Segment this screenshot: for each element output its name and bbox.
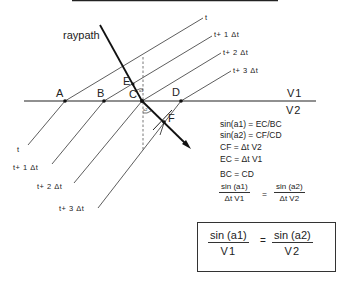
angle-a2-label: a2 — [143, 107, 147, 112]
ratio-right-fraction: sin (a2) Δt V2 — [274, 182, 305, 203]
equation-cf: CF = Δt V2 — [220, 143, 262, 152]
point-f-label: F — [168, 112, 175, 124]
medium-v2-label: V2 — [286, 104, 301, 116]
lower-wavefront-label-t2: t+ 2 Δt — [37, 182, 62, 191]
snell-law-box: sin (a1) V1 = sin (a2) V2 — [197, 222, 336, 272]
snell-equals: = — [260, 235, 266, 246]
snell-left-numerator: sin (a1) — [208, 229, 249, 243]
equation-sin-a1: sin(a1) = EC/BC — [220, 120, 282, 129]
ratio-left-fraction: sin (a1) Δt V1 — [219, 182, 250, 203]
point-c-label: C — [129, 88, 137, 100]
ratio-right-denominator: Δt V2 — [280, 193, 300, 203]
upper-wavefront-label-t0: t — [205, 13, 208, 22]
equation-ec: EC = Δt V1 — [220, 155, 262, 164]
upper-wavefront-label-t2: t+ 2 Δt — [223, 48, 248, 57]
point-e-label: E — [123, 75, 130, 87]
ratio-left-numerator: sin (a1) — [219, 182, 250, 193]
snell-right-numerator: sin (a2) — [272, 229, 313, 243]
snell-right-denominator: V2 — [285, 243, 300, 257]
snell-right-fraction: sin (a2) V2 — [272, 229, 313, 257]
angle-a1-label: a1 — [139, 88, 143, 93]
ratio-right-numerator: sin (a2) — [274, 182, 305, 193]
point-a-label: A — [56, 87, 63, 99]
upper-wavefront-label-t1: t+ 1 Δt — [214, 30, 239, 39]
medium-v1-label: V1 — [287, 87, 302, 99]
point-b-label: B — [97, 87, 104, 99]
lower-wavefront-label-t1: t+ 1 Δt — [13, 163, 38, 172]
lower-wavefront-label-t3: t+ 3 Δt — [59, 204, 84, 213]
snell-left-fraction: sin (a1) V1 — [208, 229, 249, 257]
lower-wavefront-label-t0: t — [17, 145, 20, 154]
raypath-label: raypath — [63, 29, 100, 41]
snell-left-denominator: V1 — [221, 243, 236, 257]
equation-bc-cd: BC = CD — [220, 170, 254, 179]
ratio-left-denominator: Δt V1 — [225, 193, 245, 203]
upper-wavefront-label-t3: t+ 3 Δt — [233, 66, 258, 75]
point-d-label: D — [172, 86, 180, 98]
equation-sin-a2: sin(a2) = CF/CD — [220, 131, 282, 140]
ratio-equals: = — [262, 190, 267, 199]
